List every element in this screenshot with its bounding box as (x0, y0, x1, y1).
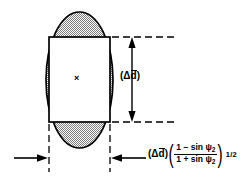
vertical-arrow-down (128, 111, 135, 122)
figure-canvas (0, 0, 251, 184)
figure-root: × (Δd) (Δd) ( 1 − sin ψ2 1 + sin ψ2 ) 1/… (0, 0, 251, 184)
horizontal-arrow-right-pointing (37, 154, 48, 162)
projected-rectangle (49, 37, 110, 122)
horizontal-arrow-left-pointing (111, 154, 122, 162)
vertical-arrow-up (128, 37, 135, 48)
